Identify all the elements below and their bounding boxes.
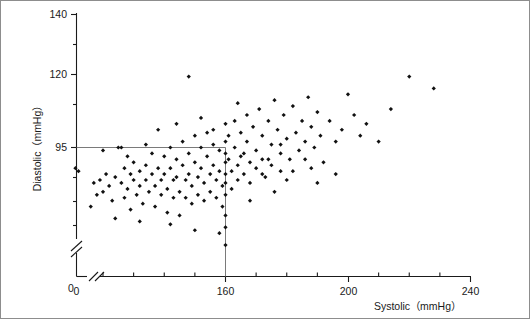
- data-point: [242, 172, 246, 176]
- data-point: [168, 166, 172, 170]
- data-point: [199, 145, 203, 149]
- data-point: [285, 178, 289, 182]
- data-point: [187, 74, 191, 78]
- data-point: [309, 125, 313, 129]
- x-tick-label-0: 0: [74, 285, 80, 297]
- x-tick-label-200: 200: [340, 285, 358, 297]
- data-point: [113, 175, 117, 179]
- data-point: [364, 122, 368, 126]
- data-point: [162, 154, 166, 158]
- data-point: [251, 125, 255, 129]
- data-point: [150, 151, 154, 155]
- data-point: [211, 142, 215, 146]
- data-point: [260, 172, 264, 176]
- data-point: [300, 119, 304, 123]
- data-point: [125, 187, 129, 191]
- data-point: [223, 151, 227, 155]
- data-point: [153, 184, 157, 188]
- data-point: [291, 104, 295, 108]
- data-point: [214, 196, 218, 200]
- data-point: [135, 193, 139, 197]
- data-point: [226, 157, 230, 161]
- data-point: [168, 145, 172, 149]
- data-point: [159, 193, 163, 197]
- y-tick-95: 95: [55, 141, 76, 153]
- data-point: [389, 107, 393, 111]
- data-point: [104, 172, 108, 176]
- data-point: [282, 113, 286, 117]
- data-point: [223, 213, 227, 217]
- data-point: [309, 166, 313, 170]
- data-point: [303, 139, 307, 143]
- y-tick-140: 140: [49, 8, 76, 20]
- y-tick-label-140: 140: [49, 8, 67, 20]
- data-point: [377, 139, 381, 143]
- data-point: [202, 199, 206, 203]
- data-point: [315, 110, 319, 114]
- data-point: [119, 145, 123, 149]
- data-point: [101, 190, 105, 194]
- data-point: [159, 178, 163, 182]
- data-point: [141, 202, 145, 206]
- data-point: [144, 163, 148, 167]
- data-point: [199, 166, 203, 170]
- data-point: [321, 160, 325, 164]
- data-point: [165, 187, 169, 191]
- data-point: [346, 92, 350, 96]
- data-point: [168, 222, 172, 226]
- data-point: [193, 228, 197, 232]
- data-point: [285, 137, 289, 141]
- data-point: [432, 86, 436, 90]
- data-point: [138, 219, 142, 223]
- data-point: [226, 134, 230, 138]
- data-point: [193, 160, 197, 164]
- data-point: [279, 169, 283, 173]
- data-point: [223, 243, 227, 247]
- data-point: [156, 166, 160, 170]
- data-point: [288, 157, 292, 161]
- data-point: [233, 119, 237, 123]
- data-point: [269, 163, 273, 167]
- data-point: [279, 142, 283, 146]
- data-point: [214, 178, 218, 182]
- data-point: [272, 190, 276, 194]
- y-axis-title: Diastolic（mmHg）: [31, 101, 43, 192]
- figure-frame: 140 120 95 0 160 200 240: [0, 0, 530, 319]
- data-point: [248, 199, 252, 203]
- data-point: [89, 205, 93, 209]
- data-point: [407, 74, 411, 78]
- data-point: [184, 196, 188, 200]
- data-point: [223, 122, 227, 126]
- data-point: [184, 178, 188, 182]
- data-point: [132, 178, 136, 182]
- y-tick-label-95: 95: [55, 141, 67, 153]
- data-point: [266, 157, 270, 161]
- data-point: [128, 172, 132, 176]
- data-point: [223, 139, 227, 143]
- data-point: [177, 213, 181, 217]
- data-point: [190, 202, 194, 206]
- data-point: [236, 163, 240, 167]
- data-point: [245, 139, 249, 143]
- data-point: [297, 148, 301, 152]
- data-point: [174, 175, 178, 179]
- data-point: [275, 128, 279, 132]
- data-point: [187, 151, 191, 155]
- data-point: [196, 193, 200, 197]
- data-point: [144, 178, 148, 182]
- x-tick-label-240: 240: [462, 285, 480, 297]
- x-axis-title: Systolic（mmHg）: [374, 300, 461, 312]
- data-point: [328, 119, 332, 123]
- data-point: [269, 142, 273, 146]
- data-point: [254, 148, 258, 152]
- data-point: [217, 169, 221, 173]
- data-point: [211, 128, 215, 132]
- x-minor-ticks: [103, 273, 440, 277]
- data-point: [223, 181, 227, 185]
- data-point: [352, 113, 356, 117]
- data-point: [98, 178, 102, 182]
- data-point: [217, 231, 221, 235]
- data-point: [248, 181, 252, 185]
- data-point: [230, 169, 234, 173]
- data-point: [223, 172, 227, 176]
